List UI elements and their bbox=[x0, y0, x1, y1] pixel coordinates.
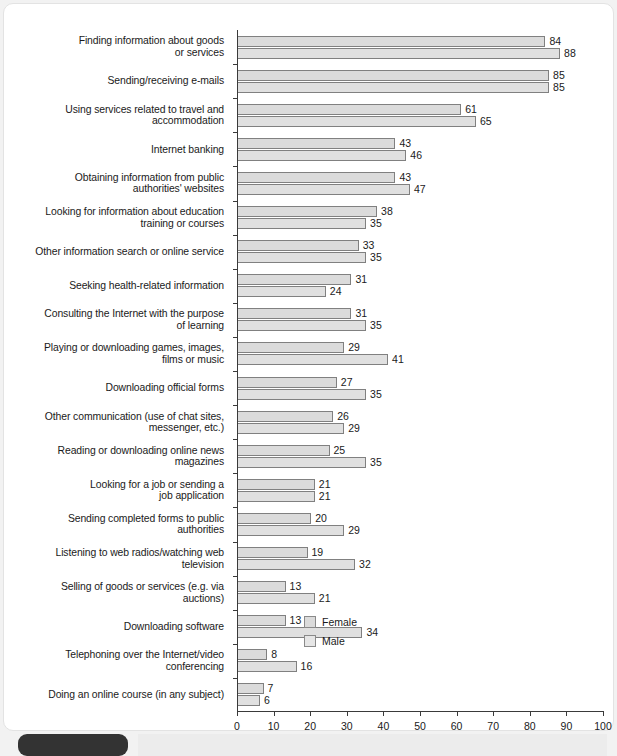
category-label: Telephoning over the Internet/video conf… bbox=[65, 649, 224, 672]
bar-female bbox=[238, 513, 311, 524]
bar-value-label: 29 bbox=[348, 423, 360, 434]
y-axis-tick bbox=[233, 473, 237, 474]
x-axis-tick bbox=[237, 712, 238, 716]
bar-female bbox=[238, 547, 308, 558]
bar-male bbox=[238, 695, 260, 706]
x-axis-tick-label: 100 bbox=[588, 720, 617, 732]
y-axis-tick bbox=[233, 303, 237, 304]
x-axis-tick bbox=[310, 712, 311, 716]
bar-value-label: 31 bbox=[355, 308, 367, 319]
legend-item-female[interactable]: Female bbox=[304, 616, 357, 628]
bar-female bbox=[238, 274, 351, 285]
bar-female bbox=[238, 206, 377, 217]
chart-card: Finding information about goods or servi… bbox=[3, 3, 614, 731]
bar-value-label: 21 bbox=[319, 593, 331, 604]
bar-value-label: 35 bbox=[370, 252, 382, 263]
bar-value-label: 85 bbox=[553, 82, 565, 93]
y-axis-tick bbox=[233, 269, 237, 270]
y-axis-tick bbox=[233, 201, 237, 202]
x-axis-tick-label: 20 bbox=[295, 720, 325, 732]
category-labels-column: Finding information about goods or servi… bbox=[4, 4, 232, 732]
x-axis-tick-label: 40 bbox=[368, 720, 398, 732]
bar-value-label: 29 bbox=[348, 342, 360, 353]
bar-male bbox=[238, 150, 406, 161]
footer-badge bbox=[18, 734, 128, 756]
bar-female bbox=[238, 683, 264, 694]
x-axis-tick bbox=[274, 712, 275, 716]
bar-female bbox=[238, 308, 351, 319]
x-axis-tick-label: 90 bbox=[551, 720, 581, 732]
bar-value-label: 13 bbox=[290, 615, 302, 626]
category-label: Consulting the Internet with the purpose… bbox=[44, 308, 224, 331]
legend-label: Male bbox=[322, 635, 345, 647]
category-label: Downloading software bbox=[124, 621, 224, 633]
legend-item-male[interactable]: Male bbox=[304, 635, 357, 647]
bar-value-label: 27 bbox=[341, 377, 353, 388]
bar-value-label: 84 bbox=[549, 36, 561, 47]
category-label: Other information search or online servi… bbox=[35, 246, 224, 258]
bar-male bbox=[238, 320, 366, 331]
y-axis-tick bbox=[233, 337, 237, 338]
bar-value-label: 24 bbox=[330, 286, 342, 297]
bar-value-label: 33 bbox=[363, 240, 375, 251]
bar-female bbox=[238, 104, 461, 115]
bar-value-label: 65 bbox=[480, 116, 492, 127]
bar-male bbox=[238, 661, 297, 672]
bar-value-label: 35 bbox=[370, 457, 382, 468]
legend-label: Female bbox=[322, 616, 357, 628]
bar-chart: Finding information about goods or servi… bbox=[4, 4, 615, 732]
bar-value-label: 13 bbox=[290, 581, 302, 592]
bar-male bbox=[238, 82, 549, 93]
category-label: Internet banking bbox=[151, 144, 224, 156]
bar-male bbox=[238, 354, 388, 365]
y-axis-tick bbox=[233, 371, 237, 372]
bar-value-label: 35 bbox=[370, 320, 382, 331]
y-axis-tick bbox=[233, 644, 237, 645]
y-axis-tick bbox=[233, 235, 237, 236]
category-label: Sending/receiving e-mails bbox=[108, 75, 224, 87]
category-label: Looking for information about education … bbox=[45, 206, 224, 229]
y-axis-tick bbox=[233, 439, 237, 440]
bar-male bbox=[238, 116, 476, 127]
category-label: Finding information about goods or servi… bbox=[79, 35, 224, 58]
x-axis-tick bbox=[457, 712, 458, 716]
x-axis-tick-label: 60 bbox=[442, 720, 472, 732]
bar-female bbox=[238, 411, 333, 422]
bar-value-label: 29 bbox=[348, 525, 360, 536]
bar-value-label: 41 bbox=[392, 354, 404, 365]
bar-female bbox=[238, 581, 286, 592]
bar-female bbox=[238, 445, 330, 456]
category-label: Sending completed forms to public author… bbox=[68, 513, 224, 536]
bar-value-label: 6 bbox=[264, 695, 270, 706]
x-axis-tick bbox=[603, 712, 604, 716]
bar-female bbox=[238, 649, 267, 660]
x-axis-tick bbox=[347, 712, 348, 716]
y-axis-tick bbox=[233, 610, 237, 611]
bar-male bbox=[238, 48, 560, 59]
category-label: Selling of goods or services (e.g. via a… bbox=[61, 581, 224, 604]
bar-female bbox=[238, 479, 315, 490]
bar-female bbox=[238, 172, 395, 183]
bar-value-label: 31 bbox=[355, 274, 367, 285]
category-label: Listening to web radios/watching web tel… bbox=[55, 547, 224, 570]
bar-female bbox=[238, 377, 337, 388]
x-axis-tick-label: 80 bbox=[515, 720, 545, 732]
bar-value-label: 88 bbox=[564, 48, 576, 59]
bar-female bbox=[238, 615, 286, 626]
bar-female bbox=[238, 138, 395, 149]
bar-value-label: 61 bbox=[465, 104, 477, 115]
x-axis-tick-label: 70 bbox=[478, 720, 508, 732]
y-axis-tick bbox=[233, 542, 237, 543]
bar-male bbox=[238, 286, 326, 297]
bar-value-label: 8 bbox=[271, 649, 277, 660]
bar-value-label: 85 bbox=[553, 70, 565, 81]
bar-female bbox=[238, 240, 359, 251]
category-label: Downloading official forms bbox=[106, 382, 225, 394]
legend-swatch-icon bbox=[304, 616, 316, 628]
category-label: Seeking health-related information bbox=[69, 280, 224, 292]
bar-value-label: 46 bbox=[410, 150, 422, 161]
y-axis-tick bbox=[233, 132, 237, 133]
bar-male bbox=[238, 252, 366, 263]
y-axis-tick bbox=[233, 507, 237, 508]
x-axis-tick bbox=[383, 712, 384, 716]
